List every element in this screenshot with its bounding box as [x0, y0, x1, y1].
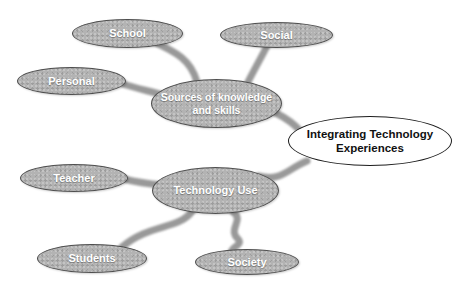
- node-students: Students: [37, 244, 147, 273]
- node-school-label: School: [104, 27, 151, 40]
- node-school: School: [72, 19, 183, 48]
- node-social: Social: [220, 22, 333, 48]
- node-teacher-label: Teacher: [48, 172, 99, 185]
- edge-techuse-society: [231, 212, 239, 252]
- node-teacher: Teacher: [20, 164, 128, 192]
- node-technology-use: Technology Use: [152, 167, 279, 214]
- node-personal: Personal: [17, 67, 126, 95]
- node-sources-of-knowledge: Sources of knowledge and skills: [151, 79, 282, 128]
- node-sources-of-knowledge-label: Sources of knowledge and skills: [152, 91, 281, 115]
- node-society-label: Society: [222, 256, 271, 269]
- mind-map-diagram: School Social Personal Sources of knowle…: [0, 0, 459, 288]
- node-integrating-technology-experiences: Integrating Technology Experiences: [288, 116, 452, 166]
- node-integrating-technology-experiences-label: Integrating Technology Experiences: [289, 127, 451, 156]
- node-social-label: Social: [255, 29, 297, 42]
- edge-techuse-students: [122, 210, 193, 247]
- edge-social-sources: [248, 46, 267, 82]
- node-society: Society: [195, 249, 299, 275]
- edge-school-sources: [154, 42, 197, 82]
- node-personal-label: Personal: [43, 75, 99, 88]
- node-students-label: Students: [63, 252, 120, 265]
- node-technology-use-label: Technology Use: [168, 184, 262, 197]
